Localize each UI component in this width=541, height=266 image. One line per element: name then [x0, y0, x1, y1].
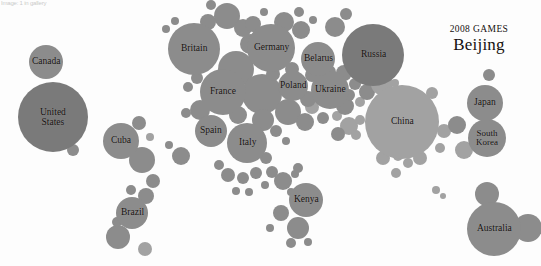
bubble-country — [289, 183, 323, 217]
bubble-unlabeled — [282, 137, 290, 145]
bubble-unlabeled — [146, 174, 160, 188]
bubble-country — [467, 85, 503, 121]
bubble-country — [18, 82, 88, 152]
bubble-unlabeled — [403, 158, 413, 168]
bubble-unlabeled — [483, 69, 495, 81]
bubble-country — [103, 123, 139, 159]
chart-title-block: 2008 GAMES Beijing — [431, 24, 527, 55]
bubble-unlabeled — [126, 185, 136, 195]
bubble-country — [311, 71, 349, 109]
bubble-country — [301, 42, 335, 76]
bubble-unlabeled — [250, 167, 262, 179]
bubble-country — [168, 23, 220, 75]
bubble-unlabeled — [270, 125, 282, 137]
corner-note-text: Image: 1 in gallery — [1, 0, 46, 6]
bubble-unlabeled — [245, 188, 253, 196]
bubble-unlabeled — [138, 242, 152, 256]
bubble-unlabeled — [391, 168, 401, 178]
bubble-unlabeled — [183, 82, 193, 92]
bubble-unlabeled — [221, 168, 235, 182]
bubble-country — [365, 85, 439, 159]
bubble-chart-canvas: Image: 1 in gallery United StatesChinaRu… — [0, 0, 541, 266]
bubble-unlabeled — [448, 116, 466, 134]
bubble-unlabeled — [146, 133, 154, 141]
bubble-unlabeled — [294, 7, 304, 17]
bubble-country — [247, 24, 295, 72]
bubble-unlabeled — [172, 147, 190, 165]
bubble-unlabeled — [232, 187, 240, 195]
bubble-unlabeled — [286, 238, 296, 248]
bubble-unlabeled — [351, 130, 361, 140]
bubble-country — [227, 123, 267, 163]
bubble-country — [468, 119, 506, 157]
bubble-unlabeled — [325, 17, 345, 37]
bubble-unlabeled — [261, 181, 269, 189]
bubble-unlabeled — [331, 127, 345, 141]
bubble-unlabeled — [432, 186, 440, 194]
bubble-unlabeled — [304, 238, 312, 246]
bubble-unlabeled — [266, 224, 274, 232]
bubble-unlabeled — [162, 25, 170, 33]
bubble-unlabeled — [355, 115, 365, 125]
bubble-unlabeled — [273, 205, 289, 221]
bubble-unlabeled — [309, 16, 317, 24]
bubble-unlabeled — [181, 108, 191, 118]
bubble-country — [342, 24, 404, 86]
bubble-unlabeled — [440, 193, 446, 199]
bubble-unlabeled — [340, 8, 352, 20]
bubble-unlabeled — [435, 143, 445, 153]
bubble-country — [278, 71, 308, 101]
bubble-unlabeled — [293, 163, 303, 173]
games-city-label: Beijing — [431, 35, 527, 55]
bubble-unlabeled — [296, 113, 314, 131]
bubble-unlabeled — [317, 112, 329, 124]
bubble-unlabeled — [214, 160, 224, 170]
bubble-unlabeled — [260, 8, 268, 16]
bubble-unlabeled — [106, 225, 130, 249]
bubble-country — [29, 45, 63, 79]
bubble-country — [200, 69, 246, 115]
bubble-unlabeled — [287, 217, 309, 239]
bubble-unlabeled — [165, 141, 173, 149]
bubble-unlabeled — [292, 21, 310, 39]
bubble-unlabeled — [206, 0, 216, 10]
bubble-country — [116, 197, 148, 229]
bubble-country — [467, 202, 521, 256]
games-year-label: 2008 GAMES — [431, 24, 527, 34]
bubble-country — [195, 115, 227, 147]
bubble-unlabeled — [171, 17, 179, 25]
bubble-unlabeled — [237, 172, 249, 184]
